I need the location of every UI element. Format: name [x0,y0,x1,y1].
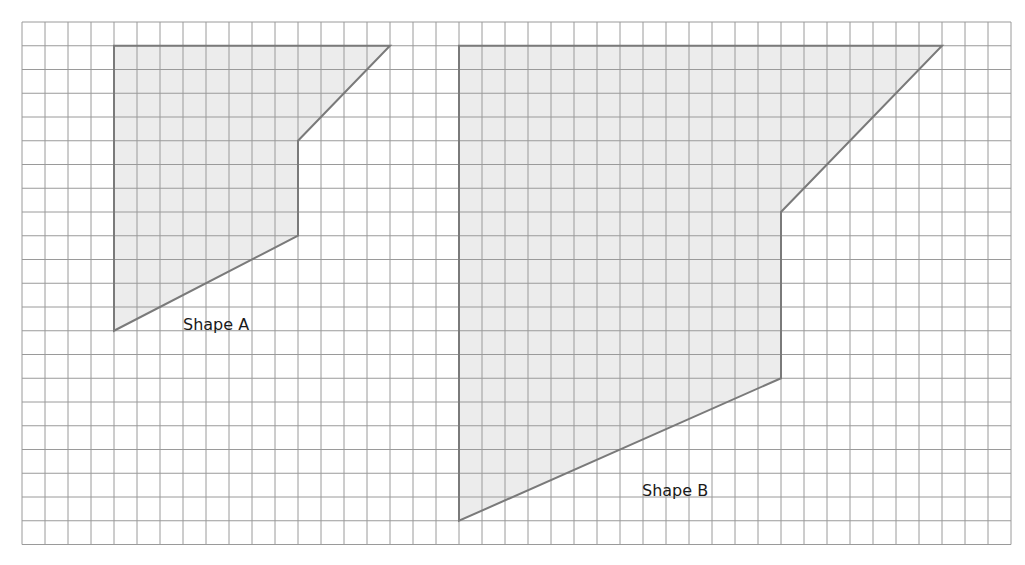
shape-b-label: Shape B [642,483,708,499]
shape-a-label: Shape A [183,317,249,333]
grid-diagram [0,0,1025,565]
